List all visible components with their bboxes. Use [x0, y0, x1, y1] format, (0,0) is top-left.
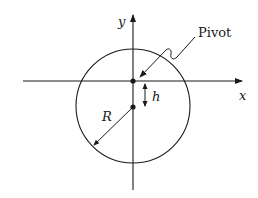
- pivot-leader-line: [140, 37, 195, 77]
- pivot-point: [130, 78, 135, 83]
- x-axis-label: x: [239, 88, 247, 103]
- h-label: h: [152, 89, 160, 104]
- pendulum-disk-diagram: Pivot y x h R: [0, 0, 258, 198]
- y-axis-label: y: [117, 14, 126, 29]
- pivot-label: Pivot: [198, 25, 232, 40]
- radius-arrow: [94, 107, 133, 145]
- radius-label: R: [101, 109, 112, 124]
